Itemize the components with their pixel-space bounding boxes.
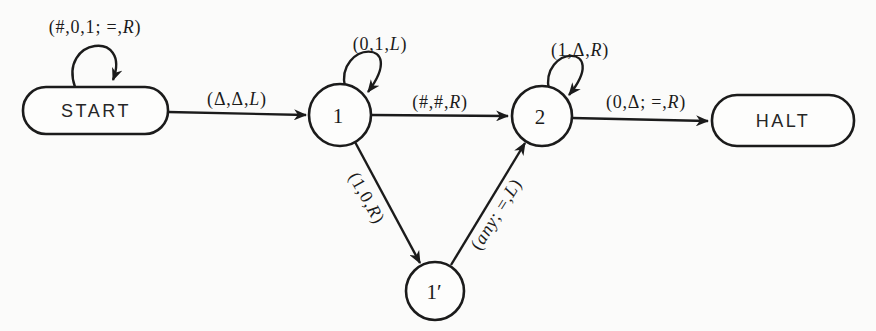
transition-start-to-1-arrow	[168, 112, 306, 115]
transition-2-to-halt-arrow	[572, 118, 708, 121]
state-2-label: 2	[535, 107, 546, 128]
state-halt-label: HALT	[756, 112, 811, 130]
transition-1-to-2-arrow	[371, 115, 508, 116]
state-1-label: 1	[333, 106, 344, 127]
transition-start-self-label: (#,0,1; =,R)	[49, 18, 142, 36]
transition-2-self-label: (1,Δ,R)	[551, 41, 609, 59]
transition-start-self-arrow	[72, 46, 116, 87]
transition-1-self-label: (0,1,L)	[353, 35, 408, 53]
state-diagram: START 1 2 1′ HALT (#,0,1; =,R) (Δ,Δ,L) (…	[0, 0, 876, 331]
state-1prime-label: 1′	[426, 282, 441, 303]
transition-1-to-2-label: (#,#,R)	[412, 93, 468, 111]
transition-start-to-1-label: (Δ,Δ,L)	[207, 90, 267, 108]
state-start-label: START	[61, 102, 131, 120]
transition-2-to-halt-label: (0,Δ; =,R)	[606, 93, 686, 111]
